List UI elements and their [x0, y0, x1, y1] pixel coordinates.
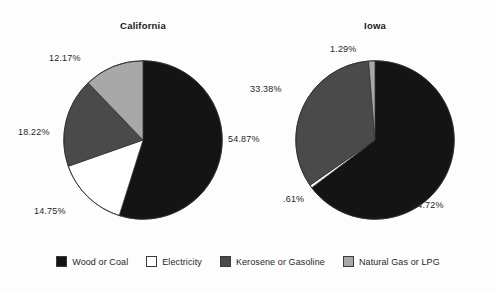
- pie-chart-iowa: [295, 60, 455, 220]
- legend-label-electricity: Electricity: [162, 257, 202, 267]
- legend-item-wood-or-coal: Wood or Coal: [56, 256, 128, 267]
- legend-swatch-kerosene-or-gasoline: [220, 256, 231, 267]
- pie-label-iowa-kerosene-or-gasoline: 33.38%: [250, 84, 282, 94]
- legend-swatch-natural-gas-or-lpg: [343, 256, 354, 267]
- legend-label-kerosene-or-gasoline: Kerosene or Gasoline: [236, 257, 325, 267]
- pie-label-iowa-natural-gas-or-lpg: 1.29%: [330, 44, 357, 54]
- pie-chart-california: [63, 60, 223, 220]
- legend-item-electricity: Electricity: [146, 256, 202, 267]
- legend-item-kerosene-or-gasoline: Kerosene or Gasoline: [220, 256, 325, 267]
- pie-chart-figure: California 54.87% 14.75% 18.22% 12.17% I…: [0, 0, 496, 293]
- pie-svg-iowa: [295, 60, 455, 220]
- pie-label-california-electricity: 14.75%: [34, 206, 66, 216]
- pie-label-california-wood-or-coal: 54.87%: [228, 134, 260, 144]
- chart-legend: Wood or Coal Electricity Kerosene or Gas…: [0, 256, 496, 267]
- legend-label-natural-gas-or-lpg: Natural Gas or LPG: [359, 257, 440, 267]
- pie-label-iowa-electricity: .61%: [283, 194, 304, 204]
- pie-label-california-kerosene-or-gasoline: 18.22%: [18, 127, 50, 137]
- legend-label-wood-or-coal: Wood or Coal: [72, 257, 128, 267]
- chart-title-california: California: [120, 20, 166, 31]
- pie-label-california-natural-gas-or-lpg: 12.17%: [49, 53, 81, 63]
- legend-swatch-wood-or-coal: [56, 256, 67, 267]
- chart-title-iowa: Iowa: [364, 20, 386, 31]
- legend-item-natural-gas-or-lpg: Natural Gas or LPG: [343, 256, 440, 267]
- legend-swatch-electricity: [146, 256, 157, 267]
- pie-svg-california: [63, 60, 223, 220]
- pie-label-iowa-wood-or-coal: 64.72%: [412, 200, 444, 210]
